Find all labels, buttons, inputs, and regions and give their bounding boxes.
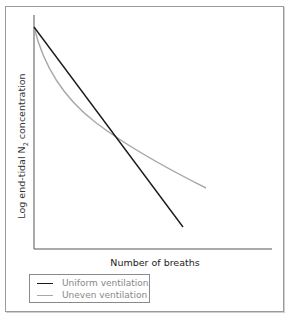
legend-swatch-uneven [37, 295, 53, 296]
plot-area [0, 0, 288, 315]
legend-label-uneven: Uneven ventilation [62, 290, 147, 300]
uneven-ventilation-curve [34, 27, 206, 188]
x-axis-label: Number of breaths [110, 257, 199, 268]
legend-item-uniform: Uniform ventilation [30, 277, 149, 289]
uniform-ventilation-line [34, 27, 183, 227]
y-axis-label: Log end-tidal N2 concentration [16, 73, 30, 218]
legend-label-uniform: Uniform ventilation [62, 278, 149, 288]
legend-item-uneven: Uneven ventilation [30, 289, 147, 301]
legend-swatch-uniform [37, 283, 53, 284]
legend: Uniform ventilation Uneven ventilation [29, 274, 150, 303]
